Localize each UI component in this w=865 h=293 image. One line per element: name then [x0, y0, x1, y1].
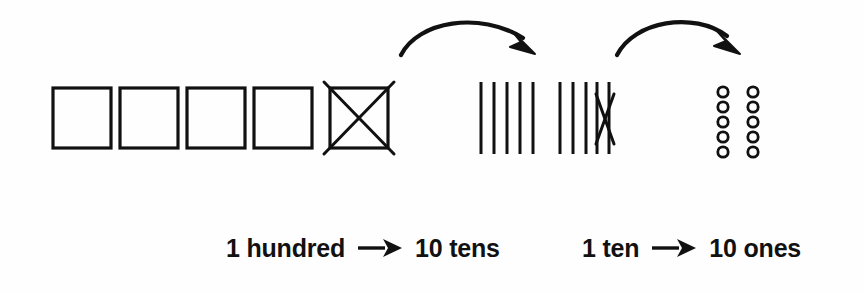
cross-out-ten-icon [596, 94, 614, 144]
caption-statement-ten-to-ones: 1 ten 10 ones [582, 228, 801, 268]
ones-group [718, 87, 758, 157]
one-unit [718, 117, 728, 127]
right-arrow-icon [651, 237, 697, 259]
tens-group [481, 82, 609, 154]
one-unit [748, 147, 758, 157]
arrow-ten-to-ones-icon [617, 22, 740, 55]
one-unit [748, 102, 758, 112]
one-unit [748, 117, 758, 127]
hundred-square [254, 88, 312, 148]
cross-out-hundred-icon [324, 82, 394, 154]
caption-statement-hundred-to-tens: 1 hundred 10 tens [226, 228, 500, 268]
hundred-square [120, 88, 178, 148]
hundred-square [187, 88, 245, 148]
one-unit [718, 132, 728, 142]
caption-left-term: 1 hundred [226, 228, 345, 268]
one-unit [718, 87, 728, 97]
one-unit [718, 147, 728, 157]
caption-right-term: 10 tens [415, 228, 500, 268]
one-unit [748, 132, 758, 142]
diagram-canvas: 1 hundred 10 tens 1 ten 10 ones [0, 0, 865, 293]
one-unit [718, 102, 728, 112]
arrow-hundred-to-tens-icon [401, 23, 535, 55]
caption-left-term: 1 ten [582, 228, 639, 268]
hundred-square [53, 88, 111, 148]
caption-row: 1 hundred 10 tens 1 ten 10 ones [0, 228, 865, 278]
right-arrow-icon [357, 237, 403, 259]
caption-right-term: 10 ones [709, 228, 801, 268]
one-unit [748, 87, 758, 97]
